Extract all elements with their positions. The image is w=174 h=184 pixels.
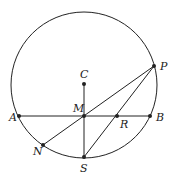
label-c: C xyxy=(80,68,89,81)
label-n: N xyxy=(32,145,43,158)
label-r: R xyxy=(119,118,128,131)
label-a: A xyxy=(8,111,17,124)
point-b xyxy=(148,114,152,118)
segment-ps xyxy=(84,66,154,157)
point-a xyxy=(17,114,21,118)
label-b: B xyxy=(155,111,164,124)
segment-pn xyxy=(43,66,154,145)
label-m: M xyxy=(72,102,85,115)
point-p xyxy=(152,64,156,68)
point-r xyxy=(115,114,119,118)
geometry-diagram: ABCMRPNS xyxy=(0,0,174,184)
label-p: P xyxy=(159,60,168,73)
point-c xyxy=(82,82,86,86)
label-s: S xyxy=(80,162,88,175)
point-s xyxy=(82,155,86,159)
